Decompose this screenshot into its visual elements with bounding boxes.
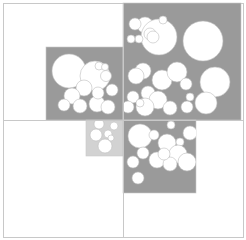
packed-circle (132, 172, 144, 184)
packed-circle (167, 121, 175, 129)
packed-circle (73, 99, 87, 113)
cell-top-left (46, 47, 123, 120)
packed-circle (158, 148, 170, 160)
packed-circle (186, 93, 194, 101)
packed-circle (129, 18, 141, 30)
packed-circle (195, 92, 217, 114)
packed-circle (180, 78, 192, 90)
packed-circle (102, 64, 109, 71)
packed-circle (128, 68, 144, 84)
packed-circle (136, 99, 144, 107)
packed-circle (92, 87, 104, 99)
packed-circle (127, 35, 135, 43)
packed-circle (58, 99, 70, 111)
packed-circle (159, 16, 167, 24)
packed-circle (181, 101, 193, 113)
packed-circle (137, 147, 149, 159)
cell-top-right (122, 3, 241, 120)
packed-circle (127, 156, 139, 168)
cell-bottom-center (86, 119, 123, 156)
packed-circle (147, 31, 159, 43)
packed-circle (90, 129, 102, 141)
packed-circle (106, 84, 118, 96)
packed-circle (135, 35, 143, 43)
packed-circle (98, 139, 112, 153)
packed-circle (163, 101, 177, 115)
packed-circle (183, 21, 223, 61)
quadtree-diagram (0, 0, 246, 240)
packed-circle (149, 130, 159, 140)
packed-circle (101, 100, 115, 114)
cells-layer (46, 3, 241, 193)
packed-circle (183, 126, 197, 140)
packed-circle (101, 71, 112, 82)
packed-circle (128, 124, 152, 148)
diagram-canvas (0, 0, 246, 240)
packed-circle (178, 153, 196, 171)
cell-bottom-right (123, 120, 197, 193)
packed-circle (110, 122, 118, 130)
